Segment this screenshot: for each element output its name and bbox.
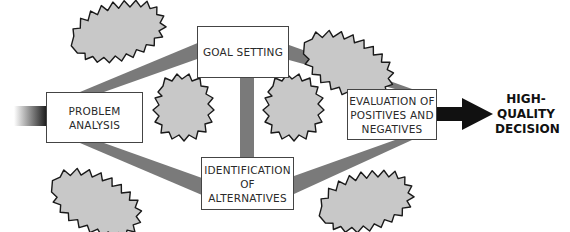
step-label: PROBLEM bbox=[68, 104, 120, 118]
cloud-center-left bbox=[153, 74, 214, 141]
step-label: POSITIVES AND bbox=[350, 108, 433, 122]
step-evaluation: EVALUATION OF POSITIVES AND NEGATIVES bbox=[347, 89, 437, 140]
step-label: IDENTIFICATION bbox=[204, 163, 290, 177]
step-goal-setting: GOAL SETTING bbox=[197, 26, 289, 78]
connector-goal-to-identification bbox=[240, 78, 254, 157]
cloud-bottom-left bbox=[40, 158, 152, 232]
decision-process-diagram: PROBLEM ANALYSIS GOAL SETTING IDENTIFICA… bbox=[0, 0, 570, 232]
step-label: OF bbox=[240, 177, 255, 191]
step-label: GOAL SETTING bbox=[203, 45, 283, 59]
outcome-line: HIGH- bbox=[495, 92, 557, 107]
output-arrow-icon bbox=[437, 98, 493, 130]
cloud-center-right bbox=[263, 74, 324, 141]
step-identification-of-alternatives: IDENTIFICATION OF ALTERNATIVES bbox=[201, 157, 294, 210]
outcome-label: HIGH- QUALITY DECISION bbox=[495, 92, 557, 137]
outcome-line: DECISION bbox=[495, 122, 557, 137]
step-label: EVALUATION OF bbox=[349, 94, 435, 108]
step-label: NEGATIVES bbox=[362, 122, 423, 136]
step-label: ANALYSIS bbox=[69, 118, 120, 132]
step-problem-analysis: PROBLEM ANALYSIS bbox=[46, 92, 143, 143]
step-label: ALTERNATIVES bbox=[208, 191, 287, 205]
outcome-line: QUALITY bbox=[495, 107, 557, 122]
input-arrow-tail bbox=[14, 106, 48, 126]
